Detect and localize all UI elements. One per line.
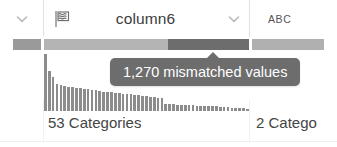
histogram-bar[interactable]	[188, 105, 191, 111]
histogram-bar[interactable]	[207, 106, 210, 111]
histogram-bar[interactable]	[176, 105, 179, 111]
histogram-bar[interactable]	[211, 106, 214, 111]
histogram-bar[interactable]	[157, 98, 160, 111]
column-menu-button[interactable]	[219, 11, 249, 27]
histogram-bar[interactable]	[75, 88, 78, 111]
histogram-bar[interactable]	[184, 105, 187, 111]
histogram-bar[interactable]	[122, 94, 125, 111]
panel-bottom-rule	[0, 141, 337, 142]
category-count-label-next: 2 Catego	[256, 114, 317, 131]
histogram-bar[interactable]	[145, 96, 148, 111]
column-profile-panel: column6 ABC 53 Categories 2 Catego 1,270…	[0, 0, 337, 147]
histogram-bar[interactable]	[110, 92, 113, 111]
histogram-bar[interactable]	[153, 97, 156, 111]
column-footer-row: 53 Categories 2 Catego	[0, 112, 337, 138]
histogram-bar[interactable]	[79, 88, 82, 111]
chevron-down-icon[interactable]	[226, 11, 242, 27]
histogram-bar[interactable]	[242, 108, 245, 111]
tooltip-arrow	[206, 52, 220, 59]
column-header-column6[interactable]: column6	[43, 0, 249, 37]
column-name-label: column6	[72, 10, 219, 28]
histogram-bar[interactable]	[141, 96, 144, 111]
histogram-bar[interactable]	[87, 89, 90, 111]
main-column-mismatched[interactable]	[168, 39, 249, 50]
histogram-bar[interactable]	[126, 94, 129, 111]
histogram-bar[interactable]	[106, 92, 109, 111]
histogram-bar[interactable]	[118, 93, 121, 111]
histogram-bar[interactable]	[161, 98, 164, 111]
histogram-bar[interactable]	[44, 54, 47, 111]
histogram-bar[interactable]	[114, 93, 117, 111]
histogram-bar[interactable]	[192, 105, 195, 111]
histogram-bar[interactable]	[83, 89, 86, 111]
histogram-bar[interactable]	[203, 106, 206, 111]
histogram-bar[interactable]	[168, 104, 171, 111]
histogram-bar[interactable]	[196, 106, 199, 111]
next-column-quality[interactable]	[252, 39, 324, 50]
flag-text-icon	[52, 9, 72, 29]
histogram-bar[interactable]	[238, 108, 241, 111]
main-column-valid[interactable]	[44, 39, 168, 50]
histogram-bar[interactable]	[172, 104, 175, 111]
chevron-down-icon[interactable]	[14, 11, 30, 27]
histogram-bar[interactable]	[137, 95, 140, 111]
histogram-bar[interactable]	[63, 86, 66, 111]
mismatched-values-tooltip: 1,270 mismatched values	[110, 58, 300, 86]
tooltip-text: 1,270 mismatched values	[123, 64, 287, 80]
histogram-bar[interactable]	[133, 95, 136, 111]
histogram-bar[interactable]	[219, 107, 222, 111]
histogram-bar[interactable]	[95, 90, 98, 111]
histogram-bar[interactable]	[223, 107, 226, 111]
quality-bar-strip	[0, 39, 337, 50]
histogram-bar[interactable]	[98, 91, 101, 111]
column-header-row: column6 ABC	[0, 0, 337, 37]
histogram-bar[interactable]	[91, 90, 94, 111]
histogram-bar[interactable]	[149, 97, 152, 111]
histogram-bar[interactable]	[102, 92, 105, 111]
histogram-bar[interactable]	[71, 87, 74, 111]
histogram-bar[interactable]	[67, 87, 70, 112]
prev-column-quality[interactable]	[13, 39, 41, 50]
histogram-bar[interactable]	[56, 84, 59, 111]
histogram-bar[interactable]	[164, 104, 167, 111]
histogram-bar[interactable]	[199, 106, 202, 111]
histogram-bar[interactable]	[52, 77, 55, 111]
histogram-bar[interactable]	[130, 94, 133, 111]
column-header-previous[interactable]	[0, 0, 43, 37]
histogram-bar[interactable]	[48, 71, 51, 111]
histogram-bar[interactable]	[234, 108, 237, 111]
column-type-label: ABC	[268, 13, 291, 25]
histogram-bar[interactable]	[231, 108, 234, 111]
column-header-next[interactable]: ABC	[249, 0, 337, 37]
histogram-bar[interactable]	[227, 107, 230, 111]
histogram-bar[interactable]	[215, 106, 218, 111]
histogram-bar[interactable]	[60, 85, 63, 111]
category-count-label-main: 53 Categories	[48, 114, 141, 131]
histogram-bar[interactable]	[180, 105, 183, 111]
